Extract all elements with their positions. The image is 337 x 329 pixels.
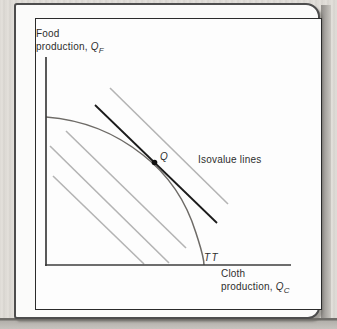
y-axis-label-line2: production, — [36, 41, 91, 52]
point-q-label: Q — [160, 150, 168, 163]
isovalue-line-3 — [50, 146, 169, 263]
isovalue-line-4 — [53, 176, 144, 264]
isovalue-line-2 — [66, 131, 186, 248]
point-q-dot — [152, 160, 158, 166]
tt-curve-label-text: TT — [204, 252, 219, 263]
y-axis-subscript: F — [99, 46, 104, 55]
y-axis-symbol: Q — [91, 41, 99, 52]
x-axis-label-line1: Cloth — [221, 268, 245, 279]
x-axis-label: Cloth production, QC — [221, 267, 290, 293]
x-axis-label-line2: production, — [221, 281, 276, 292]
x-axis-subscript: C — [284, 286, 290, 295]
x-axis-symbol: Q — [276, 281, 284, 292]
point-q-label-text: Q — [160, 151, 168, 162]
isovalue-lines-label-text: Isovalue lines — [198, 154, 261, 165]
tt-curve-label: TT — [204, 251, 219, 264]
isovalue-line-1 — [110, 88, 228, 204]
isovalue-lines-label: Isovalue lines — [198, 153, 261, 166]
y-axis-label: Food production, QF — [36, 27, 104, 53]
y-axis-label-line1: Food — [36, 28, 60, 39]
